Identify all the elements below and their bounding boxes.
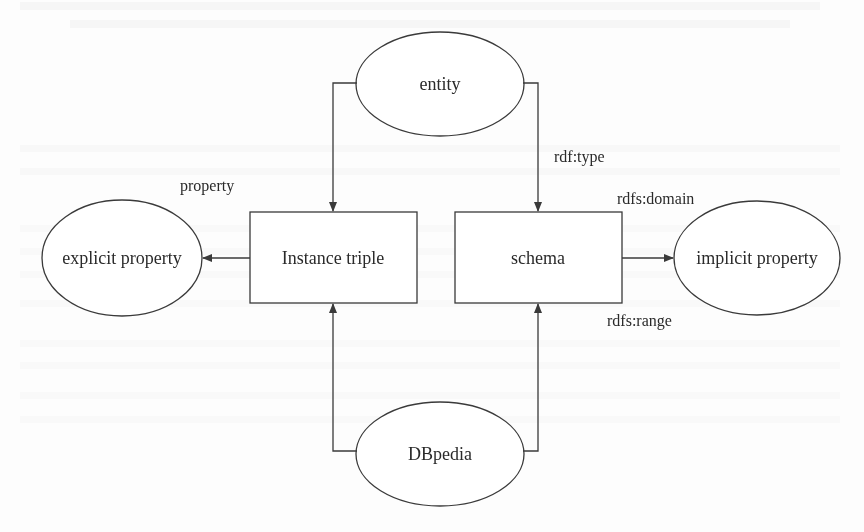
edge-label-property: property xyxy=(180,177,234,195)
node-dbpedia: DBpedia xyxy=(356,402,524,506)
node-implicit-property: implicit property xyxy=(674,201,840,315)
node-entity: entity xyxy=(356,32,524,136)
node-explicit-property: explicit property xyxy=(42,200,202,316)
edge-dbpedia-to-instance-triple xyxy=(333,304,357,451)
node-dbpedia-label: DBpedia xyxy=(408,444,472,464)
diagram-svg: entity Instance triple schema explicit p… xyxy=(0,0,864,532)
edge-label-rdfs-range: rdfs:range xyxy=(607,312,672,330)
node-explicit-property-label: explicit property xyxy=(62,248,181,268)
node-instance-triple: Instance triple xyxy=(250,212,417,303)
edge-label-rdfs-domain: rdfs:domain xyxy=(617,190,694,207)
node-implicit-property-label: implicit property xyxy=(696,248,817,268)
edge-label-rdf-type: rdf:type xyxy=(554,148,605,166)
node-entity-label: entity xyxy=(420,74,461,94)
diagram-canvas: entity Instance triple schema explicit p… xyxy=(0,0,864,532)
node-schema: schema xyxy=(455,212,622,303)
node-instance-triple-label: Instance triple xyxy=(282,248,384,268)
edge-dbpedia-to-schema xyxy=(523,304,538,451)
node-schema-label: schema xyxy=(511,248,565,268)
